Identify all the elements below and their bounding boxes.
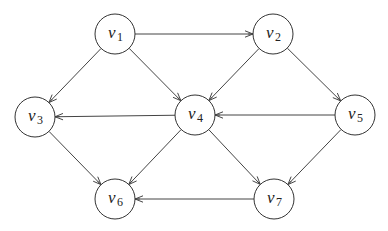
edge-v5-v4: [215, 112, 335, 118]
node-v5: v5: [335, 95, 375, 135]
edge-line: [209, 130, 261, 185]
node-v6: v6: [95, 179, 135, 219]
edge-v1-v2: [135, 31, 253, 37]
node-subscript: 2: [275, 30, 281, 44]
edge-v3-v6: [49, 131, 101, 184]
node-label: v: [108, 188, 116, 207]
node-v1: v1: [95, 14, 135, 54]
edge-v2-v4: [209, 48, 259, 100]
node-subscript: 6: [117, 195, 123, 209]
node-label: v: [188, 104, 196, 123]
edge-line: [287, 48, 341, 101]
edge-line: [209, 48, 259, 100]
node-label: v: [28, 106, 36, 125]
node-v2: v2: [253, 14, 293, 54]
node-subscript: 3: [37, 113, 43, 127]
edge-v4-v3: [55, 113, 175, 119]
edge-v7-v6: [135, 196, 254, 202]
node-label: v: [267, 188, 275, 207]
node-label: v: [348, 104, 356, 123]
edge-line: [288, 129, 341, 184]
edge-v4-v6: [129, 129, 181, 184]
node-subscript: 1: [117, 30, 123, 44]
node-subscript: 7: [276, 195, 282, 209]
node-subscript: 5: [357, 111, 363, 125]
node-v4: v4: [175, 95, 215, 135]
edge-v1-v3: [49, 48, 101, 102]
edge-v1-v4: [129, 48, 181, 101]
node-v3: v3: [15, 97, 55, 137]
edge-v4-v7: [209, 130, 261, 185]
edge-line: [49, 131, 101, 184]
edge-line: [55, 115, 175, 117]
node-v7: v7: [254, 179, 294, 219]
edge-line: [49, 48, 101, 102]
edge-v5-v7: [288, 129, 341, 184]
node-subscript: 4: [197, 111, 203, 125]
edge-line: [129, 48, 181, 101]
node-label: v: [108, 23, 116, 42]
node-label: v: [266, 23, 274, 42]
edge-line: [129, 129, 181, 184]
edge-v2-v5: [287, 48, 341, 101]
directed-graph: v1v2v3v4v5v6v7: [0, 0, 388, 231]
